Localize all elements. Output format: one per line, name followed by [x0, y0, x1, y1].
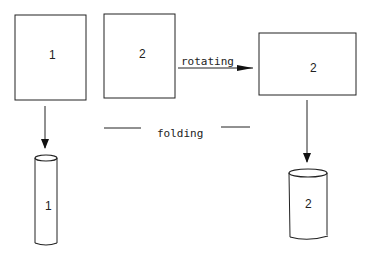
rotating-label: rotating	[181, 55, 234, 68]
panel-2: 2	[104, 14, 175, 98]
rotating-arrow: rotating	[178, 55, 253, 68]
panel-2-label: 2	[139, 47, 146, 61]
folding-annotation: folding	[104, 127, 250, 140]
panel-2-rotated: 2	[259, 33, 356, 95]
folding-diagram: 1 2 rotating 2 folding 1 2	[0, 0, 371, 259]
panel-2-rotated-label: 2	[310, 61, 317, 75]
panel-1: 1	[15, 15, 86, 100]
cylinder-2-label: 2	[305, 197, 312, 211]
cylinder-2: 2	[289, 169, 328, 239]
cylinder-1-label: 1	[45, 199, 52, 213]
panel-1-label: 1	[49, 48, 56, 62]
folding-label: folding	[157, 127, 203, 140]
cylinder-1: 1	[35, 155, 57, 245]
